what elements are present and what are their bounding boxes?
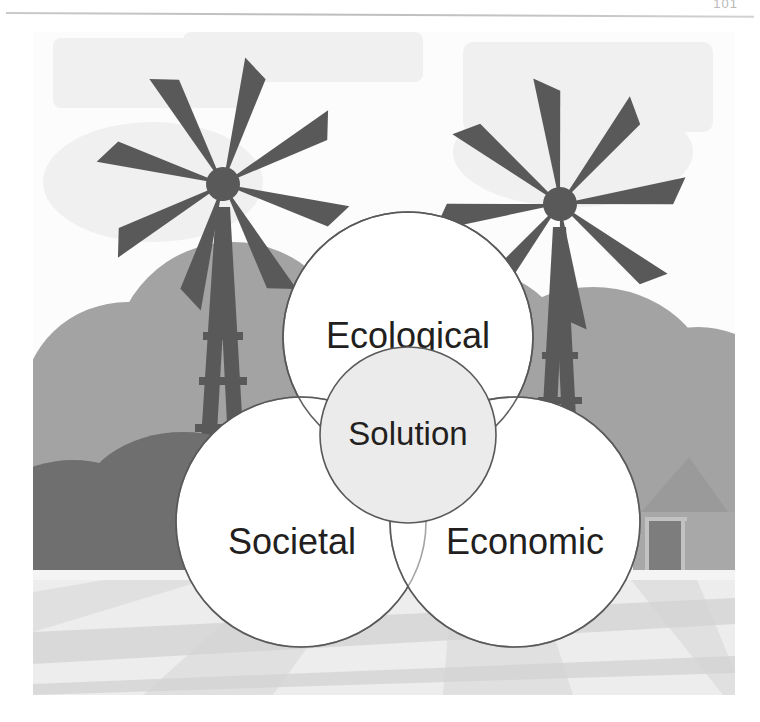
venn-circle-solution[interactable]: Solution: [320, 347, 496, 523]
venn-label-economic: Economic: [446, 521, 604, 562]
venn-label-solution: Solution: [348, 415, 467, 452]
sustainability-venn-illustration: Ecological Societal Economic: [33, 32, 735, 695]
header-rule: [6, 12, 754, 18]
venn-label-societal: Societal: [228, 521, 356, 562]
illustration-canvas: Ecological Societal Economic: [33, 32, 735, 695]
page-number: 101: [713, 0, 738, 11]
